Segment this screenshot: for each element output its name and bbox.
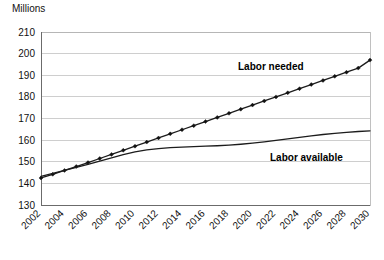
data-point-marker bbox=[204, 120, 208, 124]
data-point-marker bbox=[345, 70, 349, 74]
y-axis-tick-label: 170 bbox=[18, 113, 35, 124]
x-axis-tick-label: 2026 bbox=[301, 207, 325, 231]
data-point-marker bbox=[110, 152, 114, 156]
data-point-marker bbox=[192, 124, 196, 128]
data-point-marker bbox=[98, 157, 102, 161]
data-point-marker bbox=[239, 107, 243, 111]
y-axis-tick-label: 140 bbox=[18, 178, 35, 189]
x-axis-tick-label: 2030 bbox=[348, 207, 372, 231]
x-axis-tick-label: 2016 bbox=[183, 207, 207, 231]
y-axis-tick-label: 200 bbox=[18, 48, 35, 59]
gridlines bbox=[41, 32, 370, 205]
x-axis-tick-label: 2002 bbox=[19, 207, 43, 231]
data-point-marker bbox=[309, 83, 313, 87]
x-axis-tick-label: 2014 bbox=[160, 207, 184, 231]
series-label-labor-needed: Labor needed bbox=[238, 61, 304, 72]
data-point-marker bbox=[157, 136, 161, 140]
x-axis-tick-label: 2012 bbox=[136, 207, 160, 231]
x-axis-tick-label: 2008 bbox=[89, 207, 113, 231]
data-point-marker bbox=[145, 140, 149, 144]
data-point-marker bbox=[133, 144, 137, 148]
data-point-marker bbox=[286, 91, 290, 95]
x-axis-tick-label: 2024 bbox=[277, 207, 301, 231]
y-axis-tick-label: 210 bbox=[18, 27, 35, 38]
x-axis-tick-label: 2018 bbox=[207, 207, 231, 231]
x-axis-tick-label: 2028 bbox=[324, 207, 348, 231]
x-axis-tick-label: 2006 bbox=[66, 207, 90, 231]
data-point-marker bbox=[298, 87, 302, 91]
x-axis-tick-label: 2022 bbox=[254, 207, 278, 231]
x-axis-tick-labels: 2002200420062008201020122014201620182020… bbox=[19, 207, 372, 231]
x-axis-tick-label: 2020 bbox=[230, 207, 254, 231]
data-point-marker bbox=[121, 148, 125, 152]
data-point-marker bbox=[180, 128, 184, 132]
x-axis-tick-label: 2010 bbox=[113, 207, 137, 231]
y-axis-tick-labels: 130140150160170180190200210 bbox=[18, 27, 35, 211]
series-label-labor-available: Labor available bbox=[270, 152, 343, 163]
y-axis-tick-label: 150 bbox=[18, 156, 35, 167]
data-point-marker bbox=[321, 78, 325, 82]
data-point-marker bbox=[227, 111, 231, 115]
y-axis-tick-label: 190 bbox=[18, 70, 35, 81]
y-axis-tick-label: 160 bbox=[18, 135, 35, 146]
data-point-marker bbox=[251, 103, 255, 107]
chart-plot-area: 130140150160170180190200210 200220042006… bbox=[0, 0, 384, 260]
y-axis-tick-label: 180 bbox=[18, 91, 35, 102]
series-annotations: Labor neededLabor available bbox=[238, 61, 343, 163]
data-point-marker bbox=[262, 99, 266, 103]
data-point-marker bbox=[168, 132, 172, 136]
labor-supply-chart: Millions 130140150160170180190200210 200… bbox=[0, 0, 384, 260]
x-axis-tick-label: 2004 bbox=[42, 207, 66, 231]
data-point-marker bbox=[274, 95, 278, 99]
